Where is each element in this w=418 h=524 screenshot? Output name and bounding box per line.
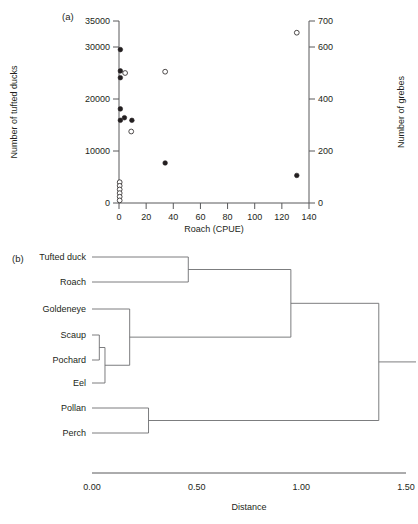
panel-b-dendrogram: (b) Tufted duckRoachGoldeneyeScaupPochar… <box>0 240 418 524</box>
panel-a-label: (a) <box>62 11 74 22</box>
x-axis-title: Roach (CPUE) <box>184 224 244 234</box>
scatter-point-filled <box>163 161 168 166</box>
dendrogram-leaf-label-eel: Eel <box>73 378 86 388</box>
dendrogram-x-axis-title: Distance <box>231 502 266 512</box>
scatter-point-open <box>123 71 128 76</box>
dendrogram-link-goldeneye-benthic <box>92 309 130 365</box>
right-y-tick-label: 0 <box>318 198 323 208</box>
dendrogram-x-tick-label: 0.50 <box>188 482 206 492</box>
left-y-tick-label: 35000 <box>85 16 110 26</box>
left-y-axis-title: Number of tufted ducks <box>9 65 19 159</box>
scatter-point-filled <box>294 173 299 178</box>
dendrogram-link-group <box>92 257 416 433</box>
x-tick-label: 60 <box>195 212 205 222</box>
scatter-point-open <box>163 69 168 74</box>
scatter-point-filled <box>118 47 123 52</box>
x-tick-label: 140 <box>301 212 316 222</box>
scatter-point-filled <box>118 75 123 80</box>
right-y-tick-label: 700 <box>318 16 333 26</box>
panel-a-scatter: (a) 010000200003000035000 0200400600700 … <box>0 0 418 240</box>
dendrogram-link-pollan-perch <box>92 408 149 433</box>
scatter-point-group <box>117 30 299 203</box>
x-tick-label: 120 <box>274 212 289 222</box>
dendrogram-link-scaup-pochard-eel <box>92 348 105 384</box>
dendrogram-link-scaup-pochard <box>92 335 99 360</box>
scatter-point-open <box>294 30 299 35</box>
x-tick-label: 20 <box>141 212 151 222</box>
dendrogram-leaf-label-tufted-duck: Tufted duck <box>39 252 86 262</box>
x-tick-label: 0 <box>116 212 121 222</box>
dendrogram-leaf-label-scaup: Scaup <box>60 330 86 340</box>
scatter-point-open <box>117 198 122 203</box>
right-y-axis-title: Number of grebes <box>396 75 406 148</box>
scatter-point-filled <box>118 69 123 74</box>
dendrogram-leaf-label-group: Tufted duckRoachGoldeneyeScaupPochardEel… <box>39 252 86 438</box>
dendrogram-leaf-label-pochard: Pochard <box>52 355 86 365</box>
dendrogram-leaf-label-perch: Perch <box>62 428 86 438</box>
right-y-tick-group: 0200400600700 <box>309 16 333 208</box>
left-y-tick-label: 20000 <box>85 94 110 104</box>
right-y-tick-label: 400 <box>318 94 333 104</box>
dendrogram-leaf-label-roach: Roach <box>60 277 86 287</box>
scatter-point-open <box>129 129 134 134</box>
dendrogram-tick-group: 0.000.501.001.50 <box>83 482 415 492</box>
x-tick-label: 100 <box>247 212 262 222</box>
dendrogram-x-tick-label: 1.50 <box>397 482 415 492</box>
left-y-tick-group: 010000200003000035000 <box>85 16 119 208</box>
left-y-tick-label: 0 <box>105 198 110 208</box>
x-tick-group: 020406080100120140 <box>116 203 316 222</box>
panel-b-label: (b) <box>12 253 24 264</box>
scatter-point-filled <box>118 118 123 123</box>
scatter-point-filled <box>130 118 135 123</box>
dendrogram-x-tick-label: 1.00 <box>293 482 311 492</box>
dendrogram-leaf-label-pollan: Pollan <box>61 403 86 413</box>
left-y-tick-label: 30000 <box>85 42 110 52</box>
dendrogram-x-tick-label: 0.00 <box>83 482 101 492</box>
figure-container: (a) 010000200003000035000 0200400600700 … <box>0 0 418 524</box>
right-y-tick-label: 200 <box>318 146 333 156</box>
scatter-point-filled <box>122 115 127 120</box>
dendrogram-link-pelagic-benthic <box>130 270 291 338</box>
x-tick-label: 40 <box>168 212 178 222</box>
dendrogram-link-tufted-duck-roach <box>92 257 188 282</box>
scatter-point-filled <box>118 107 123 112</box>
dendrogram-leaf-label-goldeneye: Goldeneye <box>42 304 86 314</box>
left-y-tick-label: 10000 <box>85 146 110 156</box>
dendrogram-link-root <box>149 303 379 420</box>
right-y-tick-label: 600 <box>318 42 333 52</box>
x-tick-label: 80 <box>223 212 233 222</box>
